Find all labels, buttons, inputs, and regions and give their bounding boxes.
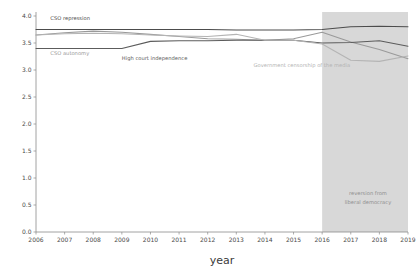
shaded-region-annotation: liberal democracy: [345, 199, 392, 206]
x-tick-label: 2018: [372, 236, 387, 243]
x-tick-label: 2012: [200, 236, 215, 243]
y-tick-label: 1.0: [22, 174, 32, 181]
chart-container: 0.00.51.01.52.02.53.03.54.02006200720082…: [0, 0, 420, 278]
x-tick-label: 2019: [400, 236, 415, 243]
series-label: CSO autonomy: [50, 50, 89, 57]
x-tick-label: 2006: [28, 236, 43, 243]
y-tick-label: 2.5: [22, 93, 32, 100]
y-tick-label: 2.0: [22, 120, 32, 127]
x-tick-label: 2007: [57, 236, 72, 243]
x-tick-label: 2015: [286, 236, 301, 243]
y-tick-label: 0.0: [22, 228, 32, 235]
y-tick-label: 3.0: [22, 66, 32, 73]
x-axis-title: year: [210, 254, 235, 267]
x-tick-label: 2009: [114, 236, 129, 243]
shaded-region-annotation: reversion from: [349, 190, 387, 196]
x-tick-label: 2010: [143, 236, 158, 243]
y-tick-label: 3.5: [22, 39, 32, 46]
series-label: Government censorship of the media: [253, 62, 350, 69]
x-tick-label: 2017: [343, 236, 358, 243]
x-tick-label: 2011: [171, 236, 186, 243]
y-tick-label: 1.5: [22, 147, 32, 154]
x-tick-label: 2014: [257, 236, 272, 243]
x-tick-label: 2008: [86, 236, 101, 243]
line-chart: 0.00.51.01.52.02.53.03.54.02006200720082…: [0, 0, 420, 278]
series-label: CSO repression: [50, 15, 90, 22]
series-label: High court independence: [122, 55, 188, 62]
y-tick-label: 4.0: [22, 12, 32, 19]
x-tick-label: 2013: [229, 236, 244, 243]
x-tick-label: 2016: [315, 236, 330, 243]
y-tick-label: 0.5: [22, 201, 32, 208]
